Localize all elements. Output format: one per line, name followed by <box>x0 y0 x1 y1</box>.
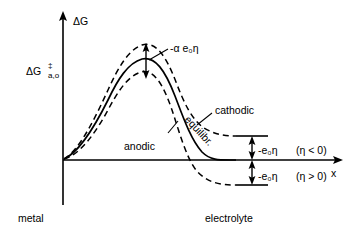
upper-plateau-gap-label: -e₀η <box>258 144 278 156</box>
peak-gap-leader-line <box>149 49 168 60</box>
peak-gap-label: -α e₀η <box>170 42 199 54</box>
upper-plateau-condition-label: (η < 0) <box>296 144 327 156</box>
curve-label-cathodic: cathodic <box>215 104 254 116</box>
lower-plateau-condition-label: (η > 0) <box>296 170 327 182</box>
upper-plateau-gap-arrow <box>249 136 256 160</box>
activation-energy-label: ΔG ‡ a,o <box>26 61 60 80</box>
activation-energy-subscript: a,o <box>48 71 60 80</box>
free-energy-diagram: ΔG x ΔG ‡ a,o -α e₀η cathodic equilibr. … <box>0 0 354 241</box>
lower-plateau-gap-label: -e₀η <box>258 170 278 182</box>
anodic-leader-line <box>168 121 178 133</box>
curve-label-equilibrium: equilibr. <box>183 113 216 148</box>
x-axis-label: x <box>331 167 337 179</box>
y-axis-label: ΔG <box>73 15 88 27</box>
activation-energy-superscript: ‡ <box>48 61 52 70</box>
region-label-electrolyte: electrolyte <box>205 212 253 224</box>
region-label-metal: metal <box>18 212 44 224</box>
lower-plateau-gap-arrow <box>249 160 256 185</box>
curve-label-anodic: anodic <box>124 140 155 152</box>
activation-energy-main: ΔG <box>26 65 41 77</box>
